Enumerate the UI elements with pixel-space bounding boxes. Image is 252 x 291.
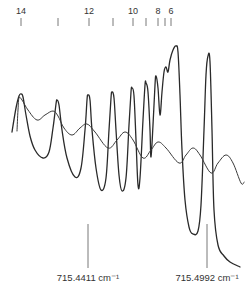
reference-label: 715.4992 cm⁻¹ [175,272,238,283]
top-tick-labels: 14121086 [16,6,174,16]
reference-label: 715.4411 cm⁻¹ [57,272,119,283]
top-tick-label: 6 [168,6,173,16]
spectrum-figure: 14121086 715.4411 cm⁻¹715.4992 cm⁻¹ [0,0,252,291]
sharp-resonance-trace [12,46,240,267]
top-tick-label: 10 [128,6,138,16]
top-tick-marks [21,18,171,26]
series-layer [12,46,244,267]
top-tick-label: 12 [84,6,94,16]
top-tick-label: 14 [16,6,26,16]
spectrum-plot: 14121086 715.4411 cm⁻¹715.4992 cm⁻¹ [0,0,252,291]
top-tick-label: 8 [155,6,160,16]
reference-markers: 715.4411 cm⁻¹715.4992 cm⁻¹ [57,224,239,283]
